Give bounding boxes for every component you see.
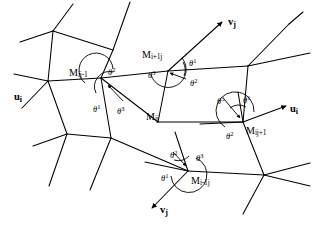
theta-exponent: 3 <box>152 69 155 76</box>
edge-outer-left-mid <box>14 74 48 81</box>
edge-top-1 <box>53 31 113 50</box>
node-sub-mi-1j: i-1j <box>200 178 210 187</box>
edge-outer-left-top <box>20 31 53 42</box>
edge-bottom-spur-1 <box>90 138 111 190</box>
arc-mij1-b <box>230 105 246 108</box>
edge-top-up-1 <box>113 2 130 50</box>
theta-exponent: 3 <box>221 95 224 102</box>
arc-mi1j-b <box>183 62 185 76</box>
theta-exponent: 2 <box>230 130 233 137</box>
edge-bottom-right-1 <box>264 163 310 175</box>
angle-label-mi1j-theta1: θ1 <box>189 58 196 67</box>
theta-exponent: 2 <box>112 66 115 73</box>
edge-bottom-right-3 <box>264 175 310 186</box>
edge-mi_1j-v-axis <box>152 171 188 208</box>
theta-exponent: 1 <box>193 57 196 64</box>
angle-label-mi1j-theta3: θ3 <box>148 70 155 79</box>
axis-sub-u-left: i <box>20 95 22 104</box>
theta-exponent: 2 <box>194 77 197 84</box>
node-label-mij1: Mij+1 <box>246 126 266 137</box>
node-sub-mij: ij <box>155 114 159 123</box>
angle-label-mi-1j-theta1: θ1 <box>161 173 168 182</box>
axis-label-v-bottom: vj <box>160 205 168 217</box>
angle-label-mi-1j-theta3: θ3 <box>196 153 203 162</box>
axis-sub-v-bottom: j <box>165 208 168 217</box>
axis-label-u-right: ui <box>290 104 298 116</box>
node-label-mij-1: Mij-1 <box>69 68 88 79</box>
node-label-mi1j: Mi+1j <box>142 50 162 61</box>
angle-label-mij1-theta2: θ2 <box>226 131 233 140</box>
node-base-mij1: M <box>246 125 255 136</box>
angle-label-mij-1-theta3: θ3 <box>117 106 124 115</box>
edge-outer-left-b2 <box>49 134 67 186</box>
angle-label-mi-1j-theta2: θ2 <box>170 150 177 159</box>
edge-left-vert-1 <box>48 31 53 81</box>
edge-outer-left-low <box>22 81 48 108</box>
angle-label-mi1j-theta2: θ2 <box>190 78 197 87</box>
pointer-mi1j-theta2 <box>170 73 186 79</box>
node-base-mi1j: M <box>142 49 151 60</box>
edge-mij1-u-axis <box>243 106 286 122</box>
angle-label-mij1-theta1: θ1 <box>243 95 250 104</box>
axis-label-u-left: ui <box>14 92 22 104</box>
angle-label-mij-1-theta1: θ1 <box>93 104 100 113</box>
node-base-mij: M <box>146 111 155 122</box>
edge-left-vert-2 <box>48 81 67 134</box>
node-sub-mij-1: ij-1 <box>78 70 88 79</box>
edge-mij-to-mi1j <box>158 71 168 122</box>
theta-exponent: 1 <box>247 94 250 101</box>
axis-sub-v-top: j <box>233 20 236 29</box>
mesh-angle-diagram: Mij Mij-1 Mi+1j Mij+1 Mi-1j θ2 θ1 θ3 θ1 … <box>0 0 314 228</box>
edge-mi1j-to-topright <box>168 66 248 71</box>
pointer-mij1plus-theta3 <box>224 99 240 118</box>
theta-exponent: 1 <box>165 172 168 179</box>
theta-exponent: 2 <box>174 149 177 156</box>
edge-outer-left-up <box>53 4 73 31</box>
axis-sub-u-right: i <box>296 107 298 116</box>
edge-topright-up <box>248 24 289 66</box>
edge-outer-left-b1 <box>33 134 67 146</box>
edge-mi_1j-left-stub <box>145 162 188 171</box>
theta-exponent: 3 <box>121 105 124 112</box>
edge-topright-outer-2 <box>289 12 303 24</box>
edge-bottom-left-1 <box>67 134 111 138</box>
angle-label-mij-1-theta2: θ2 <box>108 67 115 76</box>
node-label-mi-1j: Mi-1j <box>191 176 210 187</box>
axis-label-v-top: vj <box>228 17 236 29</box>
node-base-mij-1: M <box>69 67 78 78</box>
node-sub-mij1: ij+1 <box>255 128 266 137</box>
edge-bottom-right-2 <box>243 175 264 214</box>
theta-exponent: 3 <box>200 152 203 159</box>
node-sub-mi1j: i+1j <box>151 52 162 61</box>
node-label-mij: Mij <box>146 112 159 123</box>
angle-label-mij1-theta3: θ3 <box>217 96 224 105</box>
edge-topright-right <box>248 53 310 66</box>
theta-exponent: 1 <box>97 103 100 110</box>
node-base-mi-1j: M <box>191 175 200 186</box>
